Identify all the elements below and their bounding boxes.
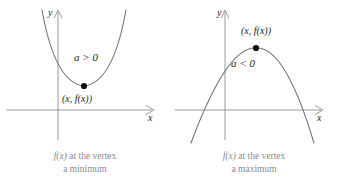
- caption-minimum-line2: a minimum: [0, 163, 170, 176]
- plot-minimum: [0, 0, 170, 148]
- y-axis-label-maximum: y: [217, 8, 221, 18]
- coefficient-sign-label-maximum: a < 0: [231, 58, 255, 69]
- caption-maximum-line1: f(x) at the vertex: [169, 150, 339, 163]
- caption-maximum-math: f(x): [223, 151, 236, 161]
- parabola-vertex-figure: a > 0 (x, f(x)) y x f(x) at the vertex a…: [0, 0, 339, 183]
- parabola-curve-minimum: [42, 10, 126, 86]
- y-axis-minimum: [54, 10, 62, 140]
- caption-maximum-rest: at the vertex: [236, 151, 285, 161]
- x-axis-minimum: [6, 106, 154, 115]
- vertex-point-maximum: [253, 45, 259, 51]
- panel-minimum: a > 0 (x, f(x)) y x f(x) at the vertex a…: [0, 0, 170, 183]
- caption-minimum-math: f(x): [54, 151, 67, 161]
- vertex-point-minimum: [81, 83, 87, 89]
- vertex-coordinate-label-maximum: (x, f(x)): [241, 26, 271, 36]
- x-axis-label-maximum: x: [317, 113, 321, 123]
- plot-maximum: [169, 0, 339, 148]
- caption-maximum: f(x) at the vertex a maximum: [169, 150, 339, 175]
- x-axis-label-minimum: x: [148, 113, 152, 123]
- y-axis-label-minimum: y: [48, 8, 52, 18]
- panel-maximum: (x, f(x)) a < 0 y x f(x) at the vertex a…: [169, 0, 339, 183]
- caption-minimum-rest: at the vertex: [67, 151, 116, 161]
- coefficient-sign-label-minimum: a > 0: [74, 52, 98, 63]
- x-axis-maximum: [175, 106, 323, 115]
- caption-maximum-line2: a maximum: [169, 163, 339, 176]
- caption-minimum-line1: f(x) at the vertex: [0, 150, 170, 163]
- caption-minimum: f(x) at the vertex a minimum: [0, 150, 170, 175]
- vertex-coordinate-label-minimum: (x, f(x)): [62, 94, 92, 104]
